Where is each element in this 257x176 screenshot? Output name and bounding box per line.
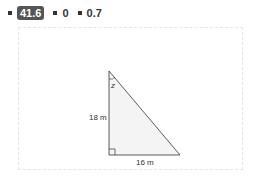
right-triangle	[109, 71, 180, 155]
horizontal-side-label: 16 m	[136, 158, 154, 167]
vertical-side-label: 18 m	[89, 113, 107, 122]
angle-label: z	[110, 81, 115, 90]
triangle-diagram: z 18 m 16 m	[0, 0, 257, 176]
